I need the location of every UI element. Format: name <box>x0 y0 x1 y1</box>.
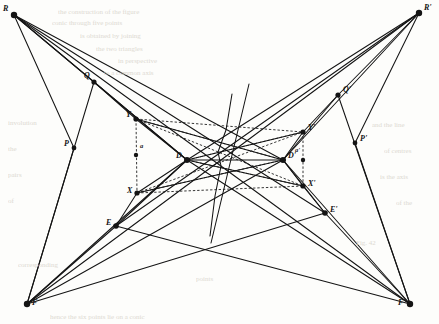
edge-Fp-E <box>116 226 410 304</box>
vertex-dot-R <box>11 12 17 18</box>
edge-D-X <box>137 160 187 193</box>
vertex-dot-Dp <box>280 157 286 163</box>
dashed-lines-layer <box>136 119 303 193</box>
vertex-dot-Pp <box>353 141 358 146</box>
diagram-canvas: RR'FF'QQ'PP'EE'DD'YY'XX'aa' the construc… <box>0 0 439 324</box>
point-label-E: E <box>106 219 111 227</box>
bleed-through-text-10: corresponding <box>18 262 58 269</box>
bleed-through-text-11: points <box>196 276 213 283</box>
vertex-dot-X <box>134 190 139 195</box>
edge-Fp-Dp <box>283 160 410 304</box>
bleed-through-text-17: hence the six points lie on a conic <box>50 314 145 321</box>
point-label-D: D <box>176 152 182 160</box>
bleed-through-text-12: Fig. 42 <box>356 240 376 247</box>
bleed-through-text-2: is obtained by joining <box>80 33 141 40</box>
point-label-Q: Q <box>84 72 90 80</box>
vertex-dot-a <box>134 153 138 157</box>
vertex-dot-Xp <box>300 183 305 188</box>
bleed-through-text-8: pairs <box>8 172 22 179</box>
vertex-dot-Yp <box>300 129 305 134</box>
point-label-ap: a' <box>295 147 300 154</box>
curved-median-line <box>210 94 232 236</box>
bleed-through-text-1: conic through five points <box>52 20 122 27</box>
point-label-Ep: E' <box>330 206 338 214</box>
vertex-dot-P <box>72 146 77 151</box>
bleed-through-text-0: the construction of the figure <box>58 9 139 16</box>
edge-R-P <box>14 15 74 148</box>
edge-F-Ep <box>27 213 325 304</box>
vertex-dot-ap <box>301 158 305 162</box>
bleed-through-text-15: is the axis <box>380 174 408 181</box>
point-label-Fp: F' <box>398 299 406 307</box>
bleed-through-text-9: of <box>8 198 14 205</box>
edge-Rp-E <box>116 13 419 226</box>
point-label-R: R <box>3 5 8 13</box>
vertex-dot-Y <box>133 116 138 121</box>
vertex-dot-Fp <box>407 301 413 307</box>
point-label-a: a <box>140 143 143 150</box>
edge-F-Q <box>27 82 94 304</box>
bleed-through-text-6: involution <box>8 120 37 127</box>
vertex-dot-Qp <box>335 92 340 97</box>
bleed-through-text-5: to a common axis <box>104 70 154 77</box>
point-label-Pp: P' <box>360 135 367 143</box>
edge-Fp-Ep <box>325 213 410 304</box>
bleed-through-text-14: of centres <box>384 148 411 155</box>
vertex-dot-F <box>24 301 30 307</box>
point-label-Yp: Y' <box>308 124 315 132</box>
edge-Rp-Qp <box>338 13 419 95</box>
point-label-Y: Y <box>126 111 131 119</box>
bleed-through-text-4: in perspective <box>118 58 157 65</box>
point-label-X: X <box>127 187 132 195</box>
solid-lines-layer <box>14 13 419 304</box>
bleed-through-text-7: the <box>8 146 17 153</box>
point-label-Qp: Q' <box>343 86 351 94</box>
edge-R-Dp <box>14 15 283 160</box>
vertex-dot-Ep <box>322 210 328 216</box>
bleed-through-text-16: of the <box>396 200 412 207</box>
edge-R-Ep <box>14 15 325 213</box>
bleed-through-text-13: and the line <box>372 122 405 129</box>
vertex-dot-E <box>113 223 119 229</box>
vertex-dot-Q <box>91 79 96 84</box>
geometry-svg <box>0 0 439 324</box>
point-label-P: P <box>64 140 69 148</box>
point-label-Xp: X' <box>308 180 316 188</box>
bleed-through-text-3: the two triangles <box>96 46 143 53</box>
point-label-Rp: R' <box>424 4 432 12</box>
vertex-dot-D <box>184 157 190 163</box>
vertex-dot-Rp <box>416 10 422 16</box>
edge-Fp-D <box>187 160 410 304</box>
point-label-F: F <box>32 299 37 307</box>
